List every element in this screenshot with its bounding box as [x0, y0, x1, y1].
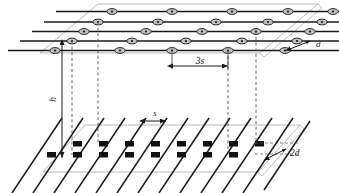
figure-root: h 3s s d 2d	[0, 0, 339, 193]
lower-marker	[47, 152, 56, 158]
diagram-canvas: h 3s s d 2d	[0, 0, 339, 193]
lower-marker	[73, 141, 82, 147]
lower-marker	[99, 141, 108, 147]
upper-marker	[167, 9, 177, 15]
upper-marker	[107, 9, 117, 15]
upper-marker	[317, 19, 327, 25]
upper-marker	[115, 48, 125, 54]
upper-marker	[197, 29, 207, 35]
upper-marker	[50, 48, 60, 54]
lower-marker	[203, 141, 212, 147]
lower-thickness-label: 2d	[290, 148, 300, 158]
lower-marker	[151, 152, 160, 158]
upper-spacing-label: 3s	[195, 56, 205, 66]
upper-marker	[237, 38, 247, 44]
upper-marker	[79, 29, 89, 35]
upper-marker	[153, 19, 163, 25]
lower-marker	[151, 141, 160, 147]
height-label: h	[48, 97, 58, 102]
lower-marker	[177, 152, 186, 158]
lower-marker	[177, 141, 186, 147]
upper-marker	[328, 9, 338, 15]
upper-marker	[305, 29, 315, 35]
upper-marker	[141, 29, 151, 35]
upper-marker	[181, 38, 191, 44]
lower-marker	[99, 152, 108, 158]
upper-marker	[283, 9, 293, 15]
upper-marker	[227, 9, 237, 15]
upper-marker	[127, 38, 137, 44]
lower-marker	[203, 152, 212, 158]
lower-marker	[125, 152, 134, 158]
lower-marker	[229, 152, 238, 158]
upper-marker	[292, 38, 302, 44]
upper-marker	[280, 48, 290, 54]
lower-marker	[125, 141, 134, 147]
upper-marker	[211, 19, 221, 25]
upper-thickness-label: d	[316, 39, 321, 49]
lower-marker	[229, 141, 238, 147]
upper-marker	[167, 48, 177, 54]
lower-marker	[73, 152, 82, 158]
upper-marker	[263, 19, 273, 25]
